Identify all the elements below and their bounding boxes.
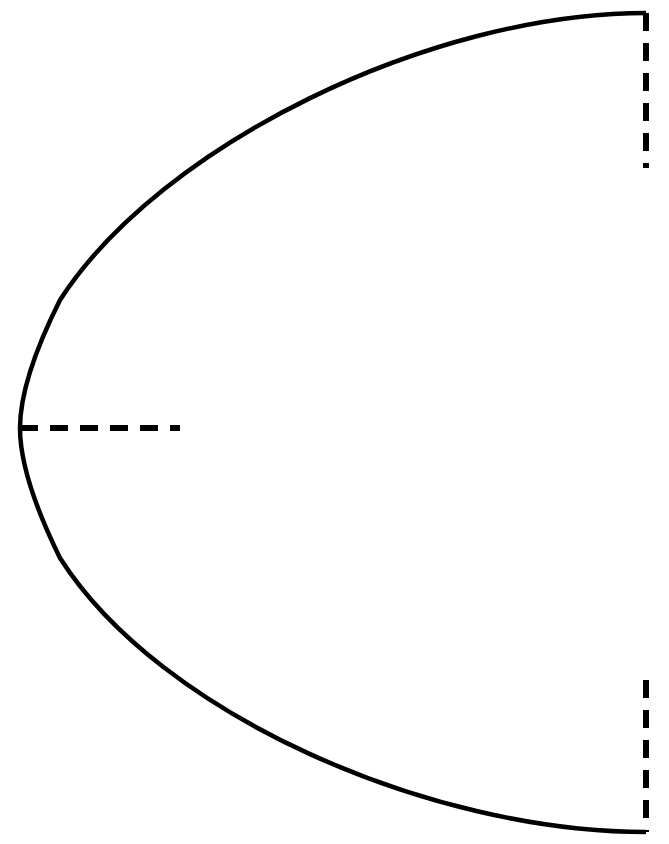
diagram-svg bbox=[0, 0, 669, 844]
canvas-background bbox=[0, 0, 669, 844]
diagram-canvas bbox=[0, 0, 669, 844]
